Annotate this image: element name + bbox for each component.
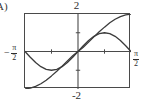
minus-sign: − xyxy=(4,48,10,58)
fraction-numerator: π xyxy=(133,50,139,58)
axis-label-bottom: -2 xyxy=(0,90,153,101)
negative-pi-over-two: − π 2 xyxy=(4,44,17,62)
plot-frame xyxy=(24,13,130,88)
fraction-pi-two-left: π 2 xyxy=(11,44,17,62)
fraction-denominator: 2 xyxy=(11,54,17,62)
axis-label-left: − π 2 xyxy=(4,43,17,62)
fraction-pi-two-right: π 2 xyxy=(133,50,139,68)
plot-canvas xyxy=(25,14,131,89)
fraction-denominator: 2 xyxy=(133,60,139,68)
pi-over-two: π 2 xyxy=(133,50,139,68)
fraction-numerator: π xyxy=(11,44,17,52)
figure-container: A) 2 − π 2 π 2 -2 xyxy=(0,0,153,105)
axis-label-top: 2 xyxy=(0,0,153,11)
axis-label-right: π 2 xyxy=(133,43,139,68)
